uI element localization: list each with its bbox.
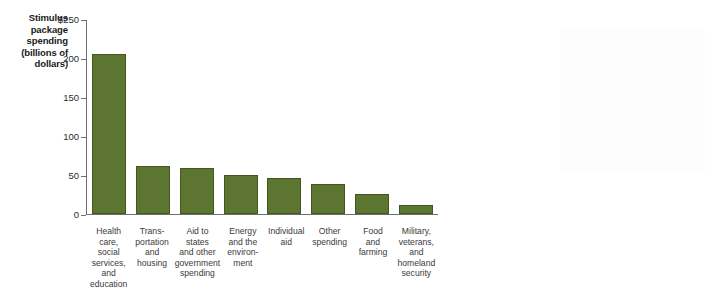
left-y-tick-label: 150 [63, 93, 79, 103]
bar [267, 178, 301, 214]
category-label: Health care, social services, and educat… [87, 226, 130, 289]
left-y-tick-mark [81, 176, 86, 177]
left-category-labels: Health care, social services, and educat… [87, 226, 438, 289]
left-y-tick-mark [81, 98, 86, 99]
left-y-tick-label: 50 [68, 171, 79, 181]
bar-slot [263, 20, 307, 214]
bar-slot [131, 20, 175, 214]
bar-slot [175, 20, 219, 214]
category-label: Individual aid [265, 226, 308, 289]
left-y-tick-label: 0 [74, 210, 79, 220]
bar-slot [87, 20, 131, 214]
bar-slot [350, 20, 394, 214]
left-y-tick-label: $250 [58, 15, 79, 25]
bar [399, 205, 433, 214]
bar [136, 166, 170, 214]
tax-cuts-panel: Tax cuts (billions of dollars) 050100150… [430, 0, 705, 289]
left-x-axis [86, 214, 438, 215]
bar [92, 54, 126, 214]
category-label: Food and farming [351, 226, 394, 289]
left-y-tick-label: 100 [63, 132, 79, 142]
left-y-tick-mark [81, 137, 86, 138]
left-y-tick-mark [81, 20, 86, 21]
bar [311, 184, 345, 214]
category-label: Other spending [308, 226, 351, 289]
category-label: Trans- portation and housing [130, 226, 173, 289]
stimulus-package-spending-panel: Stimulus package spending (billions of d… [0, 0, 455, 289]
category-label: Aid to states and other government spend… [174, 226, 221, 289]
left-bar-group [87, 20, 438, 214]
left-plot-area: 050100150200$250 [86, 20, 438, 215]
left-y-tick-mark [81, 215, 86, 216]
stimulus-spending-figure: Stimulus package spending (billions of d… [0, 0, 705, 289]
bar [224, 175, 258, 214]
category-label: Energy and the environ- ment [221, 226, 264, 289]
bar [355, 194, 389, 214]
left-y-tick-label: 200 [63, 54, 79, 64]
bar-slot [219, 20, 263, 214]
bar-slot [306, 20, 350, 214]
left-y-tick-mark [81, 59, 86, 60]
bar [180, 168, 214, 214]
